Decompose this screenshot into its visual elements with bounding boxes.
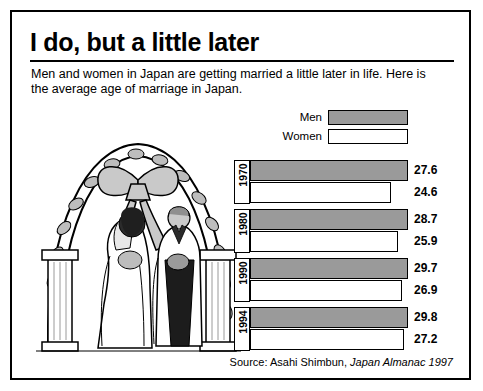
year-axis-box: 1994 [234,307,250,351]
bar-row-men: 27.6 [250,160,458,182]
chart-legend: Men Women [270,109,415,147]
legend-swatch-men [328,110,408,125]
year-axis-box: 1990 [234,258,250,302]
bar-men-1994 [250,307,408,328]
bar-group-1980: 1980 28.7 25.9 [234,209,458,253]
bar-women-1980 [250,231,398,252]
bar-women-1994 [250,329,404,350]
value-men-1994: 29.8 [414,310,437,324]
legend-label-men: Men [270,111,328,123]
bar-row-men: 28.7 [250,209,458,231]
source-credit: Source: Asahi Shimbun, Japan Almanac 199… [230,356,453,368]
bar-row-men: 29.7 [250,258,458,280]
bar-group-1970: 1970 27.6 24.6 [234,160,458,204]
bar-row-women: 27.2 [250,329,458,351]
year-axis-box: 1970 [234,160,250,204]
bar-group-1990: 1990 29.7 26.9 [234,258,458,302]
bar-chart: 1970 27.6 24.6 1980 28.7 [234,160,458,356]
value-men-1970: 27.6 [414,163,437,177]
infographic-frame: I do, but a little later Men and women i… [10,10,471,380]
source-publication: Japan Almanac 1997 [350,356,453,368]
bars-1970: 27.6 24.6 [250,160,458,204]
year-label: 1980 [237,206,249,242]
source-prefix: Source: Asahi Shimbun, [230,356,350,368]
value-women-1994: 27.2 [414,332,437,346]
year-label: 1970 [237,157,249,193]
year-label: 1994 [237,304,249,340]
wedding-couple-illustration [26,108,251,353]
bar-row-women: 26.9 [250,280,458,302]
legend-label-women: Women [270,130,328,142]
value-men-1990: 29.7 [414,261,437,275]
legend-item-men: Men [270,109,415,125]
bar-group-1994: 1994 29.8 27.2 [234,307,458,351]
value-women-1970: 24.6 [414,185,437,199]
value-men-1980: 28.7 [414,212,437,226]
subtitle-text: Men and women in Japan are getting marri… [31,67,441,97]
bar-men-1980 [250,209,408,230]
bar-men-1990 [250,258,408,279]
title-divider [30,60,454,62]
value-women-1990: 26.9 [414,283,437,297]
bar-row-men: 29.8 [250,307,458,329]
year-label: 1990 [237,255,249,291]
year-axis-box: 1980 [234,209,250,253]
value-women-1980: 25.9 [414,234,437,248]
bar-row-women: 25.9 [250,231,458,253]
bar-women-1970 [250,182,391,203]
bars-1994: 29.8 27.2 [250,307,458,351]
bars-1980: 28.7 25.9 [250,209,458,253]
bar-women-1990 [250,280,402,301]
legend-swatch-women [328,129,408,144]
bar-men-1970 [250,160,408,181]
legend-item-women: Women [270,128,415,144]
bar-row-women: 24.6 [250,182,458,204]
bars-1990: 29.7 26.9 [250,258,458,302]
page-title: I do, but a little later [30,28,259,57]
